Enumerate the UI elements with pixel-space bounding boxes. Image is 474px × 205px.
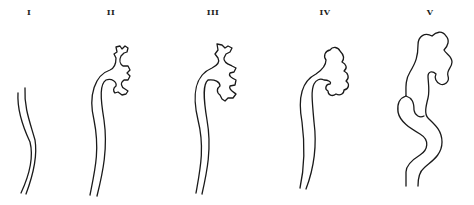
stage-4-drawing [300, 47, 348, 189]
stage-1-drawing [18, 88, 36, 194]
stage-2-drawing [90, 46, 130, 196]
stage-3-drawing [195, 44, 236, 194]
stage-5-drawing [398, 32, 452, 186]
diagram-canvas [0, 0, 474, 205]
